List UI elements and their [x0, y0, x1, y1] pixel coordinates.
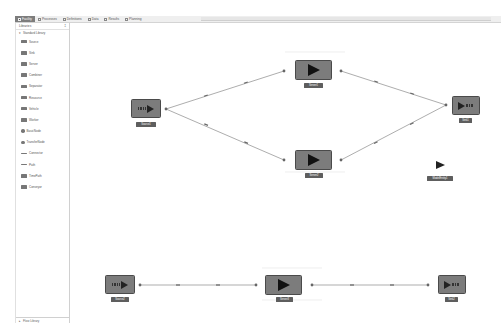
library-item-basic-node[interactable]: BasicNode [16, 126, 69, 137]
transfer-node-icon [21, 141, 25, 145]
facility-icon [18, 18, 21, 21]
library-item-server[interactable]: Server [16, 58, 69, 69]
flow-library-group[interactable]: ▸ Flow Library [16, 317, 69, 323]
sink2-label[interactable]: Sink2 [445, 297, 458, 302]
server1-label[interactable]: Server1 [304, 83, 323, 88]
library-item-conveyor[interactable]: Conveyor [16, 181, 69, 192]
tab-data[interactable]: Data [85, 16, 102, 22]
resource-icon [21, 96, 27, 100]
library-item-path[interactable]: Path [16, 159, 69, 170]
server3-label[interactable]: Server3 [276, 297, 293, 302]
source-icon [21, 40, 27, 44]
tab-processes[interactable]: Processes [35, 16, 60, 22]
server2-label[interactable]: Server2 [305, 173, 323, 178]
path-icon [21, 164, 27, 165]
source2-node[interactable] [105, 275, 135, 294]
libraries-header: Libraries ‡ [16, 23, 69, 30]
planning-icon [125, 18, 128, 21]
server3-node[interactable] [265, 275, 302, 295]
server2-node[interactable] [295, 150, 332, 170]
library-item-combiner[interactable]: Combiner [16, 70, 69, 81]
library-item-time-path[interactable]: TimePath [16, 170, 69, 181]
chevron-down-icon: ▾ [19, 31, 21, 35]
library-item-sink[interactable]: Sink [16, 47, 69, 58]
sink-icon [444, 281, 460, 289]
vehicle-icon [21, 107, 27, 111]
ribbon-strip [201, 17, 491, 21]
libraries-panel: Libraries ‡ ▾ Standard Library Source Si… [15, 23, 70, 323]
source1-label[interactable]: Source1 [136, 122, 156, 127]
server-icon [21, 62, 27, 66]
worker-icon [21, 118, 27, 122]
basic-node-icon [21, 129, 25, 133]
tab-planning[interactable]: Planning [122, 16, 144, 22]
definitions-icon [63, 18, 66, 21]
library-item-vehicle[interactable]: Vehicle [16, 103, 69, 114]
library-item-transfer-node[interactable]: TransferNode [16, 137, 69, 148]
library-item-resource[interactable]: Resource [16, 92, 69, 103]
library-item-source[interactable]: Source [16, 36, 69, 47]
source-icon [112, 281, 128, 289]
results-icon [104, 18, 107, 21]
processes-icon [38, 18, 41, 21]
server-icon [278, 279, 290, 291]
source2-label[interactable]: Source2 [111, 297, 129, 302]
sink-icon [458, 102, 474, 110]
source1-node[interactable] [131, 99, 161, 118]
connector-icon [21, 153, 27, 154]
sink-icon [21, 51, 27, 55]
pin-icon[interactable]: ‡ [64, 24, 66, 28]
sink2-node[interactable] [438, 275, 466, 294]
tab-facility[interactable]: Facility [15, 16, 35, 22]
server-icon [308, 64, 320, 76]
model-entity-label[interactable]: ModelEntity1 [427, 176, 453, 181]
data-icon [88, 18, 91, 21]
combiner-icon [21, 73, 27, 77]
sink1-label[interactable]: Sink1 [459, 118, 472, 123]
source-icon [138, 105, 154, 113]
tab-definitions[interactable]: Definitions [60, 16, 85, 22]
separator-icon [21, 85, 27, 89]
libraries-title: Libraries [19, 24, 31, 28]
tab-results[interactable]: Results [101, 16, 122, 22]
library-item-separator[interactable]: Separator [16, 81, 69, 92]
library-item-connector[interactable]: Connector [16, 148, 69, 159]
server1-node[interactable] [295, 60, 332, 80]
server-icon [308, 154, 320, 166]
chevron-right-icon: ▸ [19, 319, 21, 323]
library-item-worker[interactable]: Worker [16, 114, 69, 125]
sink1-node[interactable] [452, 96, 480, 115]
time-path-icon [21, 174, 27, 178]
conveyor-icon [21, 185, 27, 189]
model-tab-bar: Facility Processes Definitions Data Resu… [15, 16, 501, 23]
model-entity-icon[interactable] [436, 161, 445, 169]
